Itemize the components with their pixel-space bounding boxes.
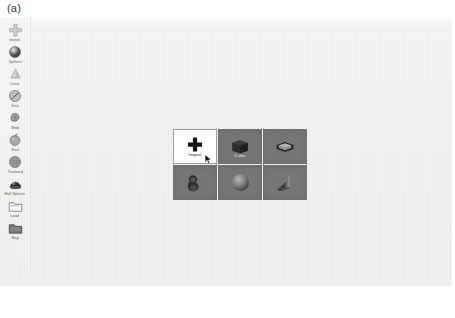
application-window: (a) Import Sphe: [0, 0, 455, 318]
folder-icon: [6, 220, 24, 236]
open-folder-icon: [6, 198, 24, 214]
blob-icon: [6, 110, 24, 126]
disc-icon: [6, 88, 24, 104]
toolbar-item-fruit[interactable]: Fruit: [0, 132, 30, 153]
gallery-tile-sphere[interactable]: [218, 165, 262, 200]
toolbar-item-label: Import: [9, 38, 20, 43]
toolbar-item-disk[interactable]: Disk: [0, 88, 30, 109]
cone-icon: [274, 173, 296, 193]
toolbar-item-blob[interactable]: Blob: [0, 110, 30, 131]
gallery-tile-label: Cube: [218, 153, 262, 159]
toolbar-item-label: Half Sphere: [5, 192, 26, 197]
toolbar-item-load[interactable]: Load: [0, 198, 30, 219]
toolbar-item-import[interactable]: Import: [0, 22, 30, 43]
sphere-icon: [6, 44, 24, 60]
toolbar-item-label: Load: [11, 214, 20, 219]
blob-icon: [185, 173, 206, 193]
gallery-tile-cone[interactable]: [263, 165, 307, 200]
textured-ball-icon: [6, 154, 24, 170]
toolbar-item-cone[interactable]: Cone: [0, 66, 30, 87]
figure-label: (a): [7, 2, 21, 14]
toolbar-item-label: Cone: [10, 82, 19, 87]
apple-icon: [6, 132, 24, 148]
canvas-top-gradient: [0, 18, 452, 27]
plus-icon: [186, 136, 204, 154]
toolbar-item-label: Blob: [11, 126, 19, 131]
dome-icon: [6, 176, 24, 192]
toolbar-item-half-sphere[interactable]: Half Sphere: [0, 176, 30, 197]
left-toolbar: Import Sphere Cone: [0, 18, 31, 268]
toolbar-item-textured[interactable]: Textured: [0, 154, 30, 175]
toolbar-item-map[interactable]: Map: [0, 220, 30, 241]
gallery-tile-cube[interactable]: Cube: [218, 129, 262, 164]
cone-icon: [6, 66, 24, 82]
plate-icon: [274, 140, 296, 154]
toolbar-item-label: Sphere: [9, 60, 21, 65]
gallery-tile-import[interactable]: Import: [173, 129, 217, 164]
gallery-tile-label: Import: [173, 152, 217, 158]
toolbar-item-label: Disk: [11, 104, 19, 109]
plus-icon: [6, 22, 24, 38]
toolbar-item-label: Map: [11, 236, 18, 241]
gallery-tile-plate[interactable]: [263, 129, 307, 164]
toolbar-item-sphere[interactable]: Sphere: [0, 44, 30, 65]
sphere-icon: [230, 172, 251, 193]
toolbar-item-label: Fruit: [11, 148, 19, 153]
gallery-tile-blob[interactable]: [173, 165, 217, 200]
shape-gallery: Import Cube: [173, 129, 308, 201]
toolbar-item-label: Textured: [8, 170, 23, 175]
